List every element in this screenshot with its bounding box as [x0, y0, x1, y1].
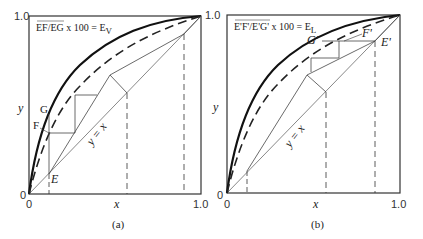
stage-steps	[49, 95, 97, 133]
y-axis-label: y	[17, 101, 24, 115]
figure: 1.0 0 0 1.0 y x (a) EF/EG x 100 = EV G F…	[0, 0, 423, 239]
point-label-F: F	[33, 119, 39, 131]
x-tick-right: 1.0	[193, 198, 208, 210]
diagonal-line	[29, 16, 201, 194]
x-tick-right: 1.0	[391, 198, 406, 210]
F-prime-pointer	[344, 34, 362, 41]
point-label-E-prime: E'	[380, 35, 391, 49]
y-tick-top: 1.0	[14, 10, 29, 22]
point-label-E: E	[50, 172, 59, 186]
efficiency-equation: E'F'/E'G' x 100 = EL	[234, 21, 316, 35]
x-axis-label: x	[312, 197, 319, 211]
q-line	[307, 75, 326, 92]
panel-caption: (b)	[311, 218, 324, 231]
x-axis-label: x	[113, 197, 120, 211]
x-tick-left: 0	[26, 198, 32, 210]
diagonal-label: y = x	[281, 121, 308, 150]
y-tick-top: 1.0	[205, 9, 220, 21]
panel-caption: (a)	[112, 218, 125, 231]
x-tick-left: 0	[224, 198, 230, 210]
panel-a: 1.0 0 0 1.0 y x (a) EF/EG x 100 = EV G F…	[14, 10, 208, 231]
y-axis-label: y	[212, 100, 219, 114]
point-label-G: G	[40, 103, 48, 115]
point-label-G-prime: G'	[307, 33, 319, 47]
operating-lines	[247, 15, 400, 171]
panel-b: 1.0 0 0 1.0 y x (b) E'F'/E'G' x 100 = EL…	[205, 9, 406, 231]
q-line	[110, 75, 127, 93]
y-tick-bottom: 0	[217, 189, 223, 201]
point-label-F-prime: F'	[361, 26, 372, 40]
diagonal-label: y = x	[83, 119, 110, 148]
efficiency-equation: EF/EG x 100 = EV	[36, 22, 113, 36]
